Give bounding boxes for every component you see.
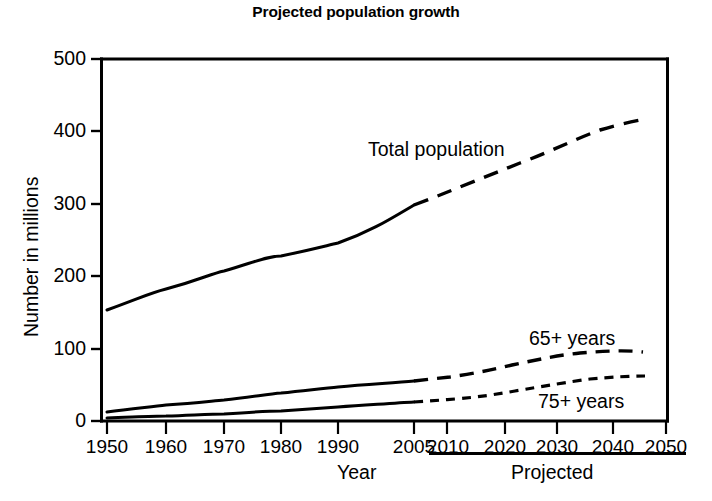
- y-axis-ticks: [91, 59, 101, 421]
- chart-plot-area: [0, 0, 712, 501]
- series-total-population-projected: [414, 119, 646, 205]
- x-tick-label-1990: 1990: [296, 436, 380, 458]
- series-total-population-observed: [107, 205, 414, 310]
- annotation-65-plus-years: 65+ years: [529, 327, 615, 350]
- y-tick-label-100: 100: [30, 337, 86, 360]
- x-axis-title: Year: [337, 461, 376, 484]
- annotation-75-plus-years: 75+ years: [538, 390, 624, 413]
- x-axis-ticks: [107, 421, 666, 434]
- x-tick-label-2050: 2050: [624, 436, 708, 458]
- chart-figure: Projected population growth: [0, 0, 712, 501]
- y-tick-label-400: 400: [30, 119, 86, 142]
- y-tick-label-0: 0: [30, 409, 86, 432]
- axis-frame: [102, 59, 668, 421]
- y-axis-title: Number in millions: [20, 177, 43, 337]
- projected-bracket-label: Projected: [511, 461, 593, 484]
- series-75plus-observed: [107, 402, 414, 418]
- projected-bracket-rule: [429, 452, 686, 455]
- y-tick-label-500: 500: [30, 47, 86, 70]
- annotation-total-population: Total population: [368, 138, 505, 161]
- series-65plus-observed: [107, 381, 414, 412]
